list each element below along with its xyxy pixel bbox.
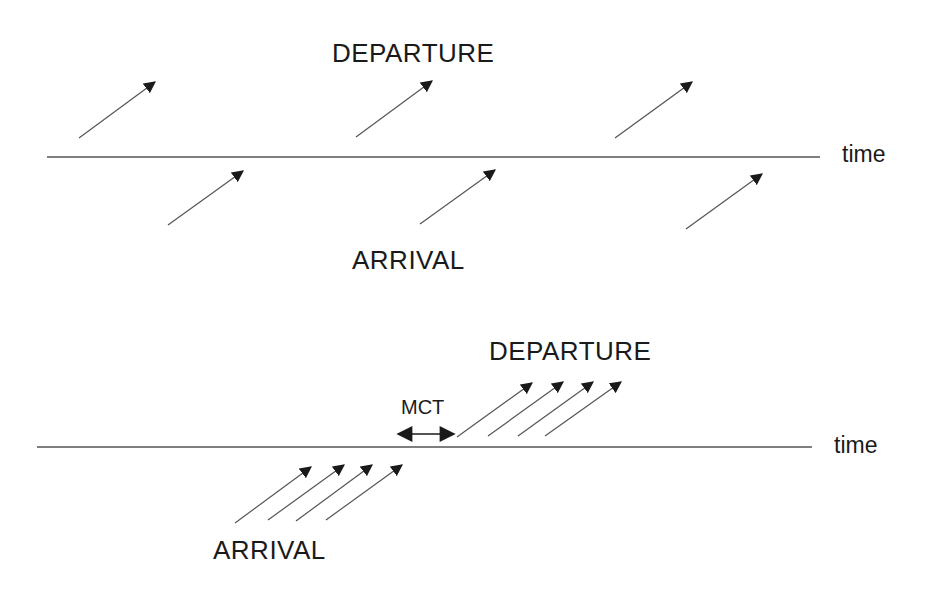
mct-label: MCT (401, 397, 444, 417)
bottom-arrival-arrow-icon (235, 467, 311, 523)
bottom-arrival-arrow-icon (268, 465, 344, 520)
bottom-arrival-arrow-icon (296, 465, 372, 521)
bottom-arrival-label: ARRIVAL (213, 537, 326, 563)
top-departure-arrow-icon (356, 81, 432, 137)
bottom-departure-label: DEPARTURE (489, 338, 651, 364)
bottom-arrival-arrow-icon (326, 465, 402, 520)
top-arrival-arrow-icon (686, 174, 762, 229)
top-arrival-arrow-icon (168, 171, 243, 225)
top-departure-arrow-icon (615, 82, 692, 138)
top-time-axis-label: time (842, 143, 885, 166)
top-arrival-arrow-icon (420, 170, 495, 224)
top-arrival-label: ARRIVAL (352, 247, 465, 273)
top-departure-arrow-icon (79, 82, 155, 138)
bottom-departure-arrow-icon (457, 383, 532, 437)
top-departure-label: DEPARTURE (332, 40, 494, 66)
bottom-departure-arrow-icon (488, 382, 563, 436)
connection-diagram (0, 0, 936, 594)
bottom-time-axis-label: time (834, 434, 877, 457)
